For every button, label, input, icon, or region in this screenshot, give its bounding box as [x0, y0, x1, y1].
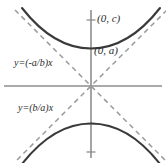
focus-upper-label: (0, c)	[97, 13, 120, 24]
asymptote-negative-slope-label: y=(-a/b)x	[14, 58, 52, 68]
axes-group	[4, 10, 162, 158]
hyperbola-plot	[0, 0, 166, 163]
asymptote-positive-slope-label: y=(b/a)x	[18, 103, 53, 113]
hyperbola-figure: (0, c) (0, a) y=(-a/b)x y=(b/a)x	[0, 0, 166, 163]
vertex-upper-label: (0, a)	[94, 45, 118, 56]
